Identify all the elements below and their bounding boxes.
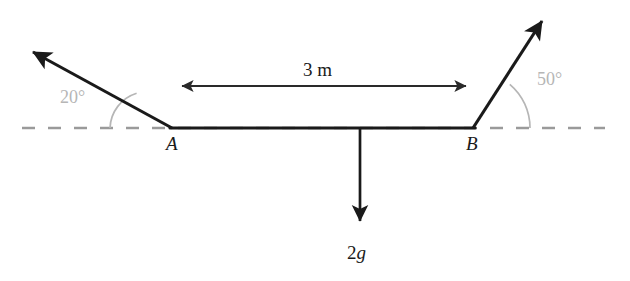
point-label-b: B [466, 134, 478, 153]
weight-number: 2 [347, 242, 357, 263]
angle-arc-right [510, 84, 530, 128]
physics-diagram: A B 3 m 2g 20° 50° [0, 0, 630, 281]
angle-arc-left [110, 93, 137, 128]
diagram-canvas [0, 0, 630, 281]
weight-label: 2g [347, 243, 366, 262]
point-label-a: A [166, 134, 178, 153]
weight-symbol: g [357, 242, 367, 263]
angle-label-right: 50° [537, 70, 562, 88]
tension-rope-left [33, 52, 172, 128]
tension-rope-right [473, 21, 542, 128]
length-label: 3 m [303, 60, 332, 79]
angle-label-left: 20° [60, 88, 85, 106]
